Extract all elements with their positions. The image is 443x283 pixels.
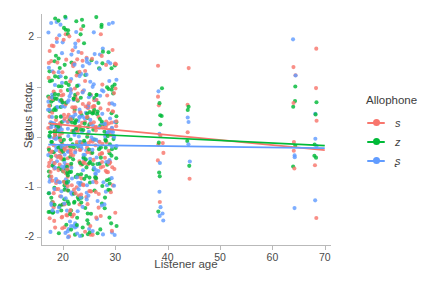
data-point xyxy=(98,94,102,98)
scatter-canvas xyxy=(42,14,330,245)
data-point xyxy=(75,216,79,220)
legend-key-dot xyxy=(373,157,380,164)
data-point xyxy=(84,73,88,77)
data-point xyxy=(79,200,83,204)
data-point xyxy=(109,154,113,158)
data-point xyxy=(109,190,113,194)
data-point xyxy=(114,119,118,123)
data-point xyxy=(157,141,161,145)
legend-key-icon xyxy=(366,133,386,150)
data-point xyxy=(59,84,63,88)
data-point xyxy=(187,66,191,70)
data-point xyxy=(94,176,98,180)
data-point xyxy=(48,216,52,220)
data-point xyxy=(101,165,105,169)
data-point xyxy=(73,150,77,154)
data-point xyxy=(92,111,96,115)
data-point xyxy=(68,219,72,223)
legend-items: szʂ xyxy=(366,113,442,170)
data-point xyxy=(94,93,98,97)
data-point xyxy=(74,30,78,34)
x-axis-line xyxy=(41,245,331,246)
data-point xyxy=(112,91,116,95)
data-point xyxy=(69,91,73,95)
data-point xyxy=(100,184,104,188)
data-point xyxy=(314,112,318,116)
data-point xyxy=(98,67,102,71)
data-point xyxy=(98,227,102,231)
data-point xyxy=(66,100,70,104)
data-point xyxy=(62,138,66,142)
legend-key-dot xyxy=(373,119,380,126)
data-point xyxy=(84,165,88,169)
data-point xyxy=(60,51,64,55)
data-point xyxy=(101,232,105,236)
data-point xyxy=(158,122,162,126)
data-point xyxy=(58,23,62,27)
data-point xyxy=(54,115,58,119)
data-point xyxy=(113,61,117,65)
data-point xyxy=(106,160,110,164)
data-point xyxy=(59,209,63,213)
data-point xyxy=(48,49,52,53)
data-point xyxy=(96,110,100,114)
data-point xyxy=(101,50,105,54)
data-point xyxy=(104,139,108,143)
data-point xyxy=(49,170,53,174)
y-tick-label: 2 xyxy=(8,31,34,42)
data-point xyxy=(160,211,164,215)
data-point xyxy=(75,175,79,179)
data-point xyxy=(157,170,161,174)
data-point xyxy=(53,74,57,78)
data-point xyxy=(87,176,91,180)
data-point xyxy=(92,30,96,34)
data-point xyxy=(105,93,109,97)
data-point xyxy=(47,210,51,214)
data-point xyxy=(158,174,162,178)
data-point xyxy=(107,79,111,83)
data-point xyxy=(66,28,70,32)
data-point xyxy=(49,196,53,200)
data-point xyxy=(60,81,64,85)
data-point xyxy=(79,193,83,197)
data-point xyxy=(58,66,62,70)
data-point xyxy=(103,206,107,210)
data-point xyxy=(57,33,61,37)
data-point xyxy=(79,96,83,100)
legend-item-1[interactable]: z xyxy=(366,132,442,151)
data-point xyxy=(73,113,77,117)
data-point xyxy=(100,151,104,155)
data-point xyxy=(102,202,106,206)
data-point xyxy=(156,95,160,99)
legend-key-icon xyxy=(366,114,386,131)
data-point xyxy=(48,230,52,234)
data-point xyxy=(56,19,60,23)
data-point xyxy=(57,180,61,184)
data-point xyxy=(69,170,73,174)
data-point xyxy=(107,216,111,220)
data-point xyxy=(157,101,161,105)
data-point xyxy=(90,57,94,61)
legend-item-0[interactable]: s xyxy=(366,113,442,132)
data-point xyxy=(75,98,79,102)
data-point xyxy=(69,166,73,170)
legend: Allophone szʂ xyxy=(366,94,442,170)
data-point xyxy=(57,56,61,60)
data-point xyxy=(62,202,66,206)
data-point xyxy=(49,125,53,129)
data-point xyxy=(50,115,54,119)
y-tick-label: -1 xyxy=(8,181,34,192)
legend-item-2[interactable]: ʂ xyxy=(366,151,442,170)
data-point xyxy=(102,130,106,134)
data-point xyxy=(72,212,76,216)
data-point xyxy=(79,110,83,114)
data-point xyxy=(76,92,80,96)
data-point xyxy=(63,15,67,19)
data-point xyxy=(47,66,51,70)
data-point xyxy=(46,30,50,34)
data-point xyxy=(68,208,72,212)
data-point xyxy=(91,162,95,166)
data-point xyxy=(100,83,104,87)
data-point xyxy=(60,216,64,220)
data-point xyxy=(55,37,59,41)
